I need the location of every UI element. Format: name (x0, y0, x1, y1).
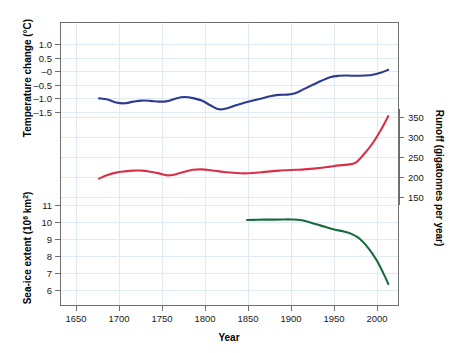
temperature-axis-title: Temperature change (°C) (22, 19, 33, 137)
seaice-tick-labels: 11 10 9 8 7 6 (41, 200, 52, 296)
temperature-tick-label: –1.0 (34, 93, 53, 104)
temperature-tick-label: 1.0 (39, 39, 52, 50)
runoff-tickmarks (399, 109, 404, 205)
year-tick-label: 1700 (108, 313, 129, 324)
temperature-tick-label: –1.5 (34, 107, 53, 118)
temperature-series-line (99, 70, 388, 110)
figure-container: 1.0 0.5 –0 –0.5 –1.0 –1.5 11 10 9 8 7 6 … (0, 0, 459, 353)
seaice-gridlines (61, 205, 398, 290)
runoff-series-line (99, 116, 388, 178)
runoff-tick-label: 150 (408, 192, 424, 203)
year-tick-label: 1650 (65, 313, 86, 324)
seaice-axis-title: Sea-ice extent (106 km2) (22, 192, 34, 305)
year-tick-label: 1750 (151, 313, 172, 324)
year-tick-label: 1900 (280, 313, 301, 324)
seaice-tick-label: 9 (47, 234, 52, 245)
year-tick-label: 1800 (194, 313, 215, 324)
seaice-tick-label: 11 (42, 200, 52, 211)
temperature-tick-label: –0 (41, 66, 52, 77)
runoff-tick-label: 350 (408, 112, 424, 123)
year-axis-title: Year (218, 332, 239, 343)
seaice-tickmarks (55, 197, 60, 298)
year-tick-label: 1950 (323, 313, 344, 324)
seaice-tick-label: 6 (47, 285, 52, 296)
temperature-tickmarks (55, 36, 60, 120)
temperature-tick-label: –0.5 (34, 80, 53, 91)
runoff-tick-label: 300 (408, 132, 424, 143)
runoff-axis-title: Runoff (gigatonnes per year) (434, 110, 445, 247)
runoff-tick-label: 200 (408, 172, 424, 183)
seaice-tick-label: 7 (47, 268, 52, 279)
year-tick-label: 2000 (366, 313, 387, 324)
runoff-tick-label: 250 (408, 152, 424, 163)
climate-multiaxis-chart: 1.0 0.5 –0 –0.5 –1.0 –1.5 11 10 9 8 7 6 … (0, 0, 459, 353)
year-tick-label: 1850 (237, 313, 258, 324)
year-tickmarks (76, 306, 377, 311)
temperature-tick-label: 0.5 (39, 53, 52, 64)
runoff-gridlines (61, 117, 398, 197)
year-tick-labels: 1650 1700 1750 1800 1850 1900 1950 2000 (65, 313, 387, 324)
seaice-tick-label: 10 (41, 217, 52, 228)
vertical-gridlines (76, 23, 377, 305)
seaice-tick-label: 8 (47, 251, 52, 262)
runoff-tick-labels: 350 300 250 200 150 (408, 112, 424, 203)
seaice-series-line (247, 219, 388, 284)
temperature-tick-labels: 1.0 0.5 –0 –0.5 –1.0 –1.5 (34, 39, 53, 118)
